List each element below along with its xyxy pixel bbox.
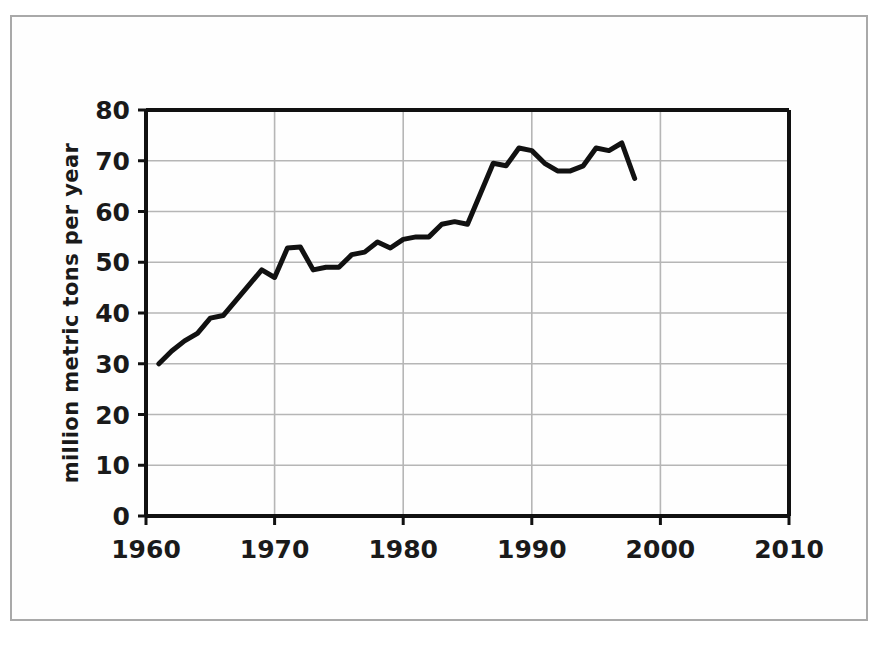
x-tick-label: 1970 (240, 535, 310, 564)
y-tick-label: 70 (95, 147, 130, 176)
x-tick-label: 1980 (368, 535, 438, 564)
x-axis-tick-labels: 196019701980199020002010 (111, 535, 824, 564)
chart-page: 01020304050607080 1960197019801990200020… (0, 0, 881, 646)
y-tick-label: 10 (95, 451, 130, 480)
x-tick-label: 2000 (626, 535, 696, 564)
y-tick-label: 40 (95, 299, 130, 328)
chart-svg: 01020304050607080 1960197019801990200020… (0, 0, 881, 646)
x-tick-label: 1990 (497, 535, 567, 564)
y-tick-label: 60 (95, 198, 130, 227)
x-tick-label: 1960 (111, 535, 181, 564)
y-axis-tick-labels: 01020304050607080 (95, 96, 130, 531)
y-tick-label: 50 (95, 248, 130, 277)
line-chart: 01020304050607080 1960197019801990200020… (0, 0, 881, 646)
y-tick-label: 20 (95, 401, 130, 430)
horizontal-gridlines (146, 161, 789, 466)
y-axis-title: million metric tons per year (59, 142, 83, 483)
y-tick-label: 30 (95, 350, 130, 379)
y-tick-label: 80 (95, 96, 130, 125)
x-tick-label: 2010 (754, 535, 824, 564)
y-tick-label: 0 (113, 502, 130, 531)
data-series-line (159, 143, 635, 364)
